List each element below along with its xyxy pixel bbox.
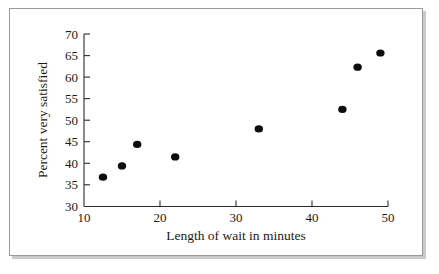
data-points-group: [99, 49, 385, 180]
chart-svg: 70 65 60 55 50 45 40 35 30 10 20 30 40 5…: [0, 0, 439, 274]
data-point: [255, 125, 263, 132]
y-axis-ticks: [84, 34, 90, 185]
y-tick-labels: 70 65 60 55 50 45 40 35 30: [65, 27, 78, 214]
data-point: [376, 49, 384, 56]
y-tick-label: 50: [65, 113, 78, 128]
y-tick-label: 35: [65, 177, 78, 192]
y-tick-label: 60: [65, 70, 78, 85]
x-axis-title: Length of wait in minutes: [166, 228, 305, 243]
data-point: [99, 174, 107, 181]
y-tick-label: 55: [65, 91, 78, 106]
y-tick-label: 65: [65, 48, 78, 63]
data-point: [338, 106, 346, 113]
scatter-plot-figure: 70 65 60 55 50 45 40 35 30 10 20 30 40 5…: [0, 0, 439, 274]
x-tick-label: 40: [306, 210, 319, 225]
x-tick-label: 20: [154, 210, 167, 225]
data-point: [118, 162, 126, 169]
y-axis-title: Percent very satisfied: [35, 62, 50, 178]
plot-area: 70 65 60 55 50 45 40 35 30 10 20 30 40 5…: [0, 0, 439, 274]
x-tick-label: 50: [382, 210, 395, 225]
x-axis-ticks: [160, 201, 388, 207]
x-tick-labels: 10 20 30 40 50: [78, 210, 395, 225]
x-tick-label: 30: [230, 210, 243, 225]
y-tick-label: 30: [65, 199, 78, 214]
y-tick-label: 45: [65, 134, 78, 149]
data-point: [353, 64, 361, 71]
data-point: [171, 153, 179, 160]
y-tick-label: 40: [65, 156, 78, 171]
data-point: [133, 141, 141, 148]
y-tick-label: 70: [65, 27, 78, 42]
x-tick-label: 10: [78, 210, 91, 225]
